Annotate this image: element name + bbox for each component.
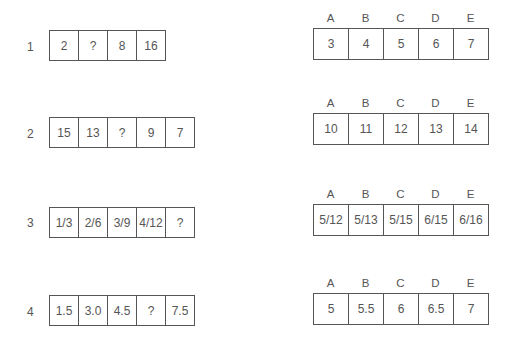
question-number: 2 — [27, 127, 34, 141]
option-cell[interactable]: 11 — [349, 114, 384, 144]
option-cell[interactable]: 7 — [454, 29, 488, 59]
option-label: D — [418, 97, 453, 113]
option-label: C — [383, 12, 418, 28]
sequence-row: 1.5 3.0 4.5 ? 7.5 — [49, 295, 195, 326]
question-number: 1 — [27, 40, 34, 54]
sequence-cell: 4/12 — [137, 208, 166, 237]
option-cell[interactable]: 7 — [454, 294, 488, 324]
option-label: E — [453, 97, 488, 113]
option-cell[interactable]: 4 — [349, 29, 384, 59]
option-label: B — [348, 277, 383, 293]
option-label: B — [348, 12, 383, 28]
option-label: A — [313, 12, 348, 28]
option-label: C — [383, 97, 418, 113]
option-cell[interactable]: 5/15 — [384, 205, 419, 235]
option-cell[interactable]: 12 — [384, 114, 419, 144]
option-cell[interactable]: 6 — [384, 294, 419, 324]
option-cell[interactable]: 5.5 — [349, 294, 384, 324]
option-cell[interactable]: 3 — [314, 29, 349, 59]
option-cell[interactable]: 13 — [419, 114, 454, 144]
option-label: C — [383, 277, 418, 293]
answer-options: A B C D E 10 11 12 13 14 — [313, 97, 489, 145]
sequence-cell: ? — [166, 208, 194, 237]
sequence-cell: 3/9 — [108, 208, 137, 237]
option-cell[interactable]: 14 — [454, 114, 488, 144]
option-cell[interactable]: 10 — [314, 114, 349, 144]
sequence-row: 1/3 2/6 3/9 4/12 ? — [49, 207, 195, 238]
answer-options: A B C D E 5/12 5/13 5/15 6/15 6/16 — [313, 188, 489, 236]
option-label: E — [453, 188, 488, 204]
option-label: A — [313, 277, 348, 293]
option-cell[interactable]: 6/16 — [454, 205, 488, 235]
option-cell[interactable]: 5/13 — [349, 205, 384, 235]
sequence-cell: 2/6 — [79, 208, 108, 237]
question-number: 4 — [27, 305, 34, 319]
option-cell[interactable]: 6.5 — [419, 294, 454, 324]
sequence-cell: 9 — [137, 118, 166, 147]
option-label: D — [418, 188, 453, 204]
sequence-cell: 1.5 — [50, 296, 79, 325]
option-cell[interactable]: 6/15 — [419, 205, 454, 235]
option-label: B — [348, 188, 383, 204]
answer-options: A B C D E 3 4 5 6 7 — [313, 12, 489, 60]
sequence-cell: 13 — [79, 118, 108, 147]
question-number: 3 — [27, 216, 34, 230]
sequence-cell: 2 — [50, 31, 79, 60]
option-label: B — [348, 97, 383, 113]
sequence-cell: 4.5 — [108, 296, 137, 325]
sequence-cell: 1/3 — [50, 208, 79, 237]
sequence-cell: 7.5 — [166, 296, 194, 325]
option-label: C — [383, 188, 418, 204]
option-cell[interactable]: 5/12 — [314, 205, 349, 235]
option-label: E — [453, 12, 488, 28]
sequence-cell: ? — [137, 296, 166, 325]
sequence-cell: 7 — [166, 118, 194, 147]
option-label: A — [313, 97, 348, 113]
option-label: E — [453, 277, 488, 293]
sequence-row: 15 13 ? 9 7 — [49, 117, 195, 148]
answer-options: A B C D E 5 5.5 6 6.5 7 — [313, 277, 489, 325]
option-cell[interactable]: 5 — [314, 294, 349, 324]
sequence-cell: 8 — [108, 31, 137, 60]
sequence-cell: ? — [108, 118, 137, 147]
option-label: A — [313, 188, 348, 204]
sequence-row: 2 ? 8 16 — [49, 30, 166, 61]
sequence-cell: 15 — [50, 118, 79, 147]
option-cell[interactable]: 5 — [384, 29, 419, 59]
sequence-cell: 16 — [137, 31, 165, 60]
sequence-cell: ? — [79, 31, 108, 60]
option-cell[interactable]: 6 — [419, 29, 454, 59]
option-label: D — [418, 277, 453, 293]
option-label: D — [418, 12, 453, 28]
sequence-cell: 3.0 — [79, 296, 108, 325]
